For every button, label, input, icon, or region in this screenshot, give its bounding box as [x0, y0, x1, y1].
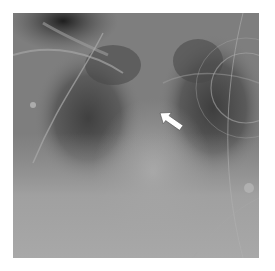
chest-xray-image: [13, 13, 259, 258]
